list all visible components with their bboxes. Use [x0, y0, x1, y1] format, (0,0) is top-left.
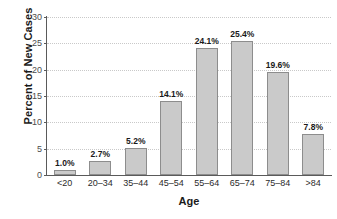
bar-45–54: [160, 101, 182, 175]
bar-value-65–74: 25.4%: [218, 30, 266, 39]
bar-20–34: [89, 161, 111, 175]
y-tick-0: 0: [20, 171, 42, 180]
bar-chart-figure: Percent of New Cases 30 25 20 15 10 5 0 …: [0, 0, 337, 219]
gridline-30: [47, 17, 331, 18]
y-tick-15: 15: [20, 92, 42, 101]
y-tick-25: 25: [20, 39, 42, 48]
bar-value-<20: 1.0%: [41, 159, 89, 168]
y-tick-5: 5: [20, 145, 42, 154]
bar-35–44: [125, 148, 147, 175]
bar-75–84: [267, 72, 289, 175]
y-axis-tick-labels: 30 25 20 15 10 5 0: [18, 17, 42, 175]
bar-<20: [54, 170, 76, 175]
x-axis-title: Age: [47, 195, 331, 207]
x-tick->84: >84: [289, 178, 337, 188]
bar-55–64: [196, 48, 218, 175]
bar-value-45–54: 14.1%: [147, 90, 195, 99]
bar-value-75–84: 19.6%: [254, 61, 302, 70]
bar-value-35–44: 5.2%: [112, 137, 160, 146]
y-tick-20: 20: [20, 66, 42, 75]
bar-value-20–34: 2.7%: [76, 150, 124, 159]
bar-value->84: 7.8%: [289, 123, 337, 132]
y-tick-10: 10: [20, 118, 42, 127]
y-tick-30: 30: [20, 13, 42, 22]
gridline-20: [47, 70, 331, 71]
x-axis-line: [44, 175, 332, 176]
bar->84: [302, 134, 324, 175]
bar-65–74: [231, 41, 253, 175]
